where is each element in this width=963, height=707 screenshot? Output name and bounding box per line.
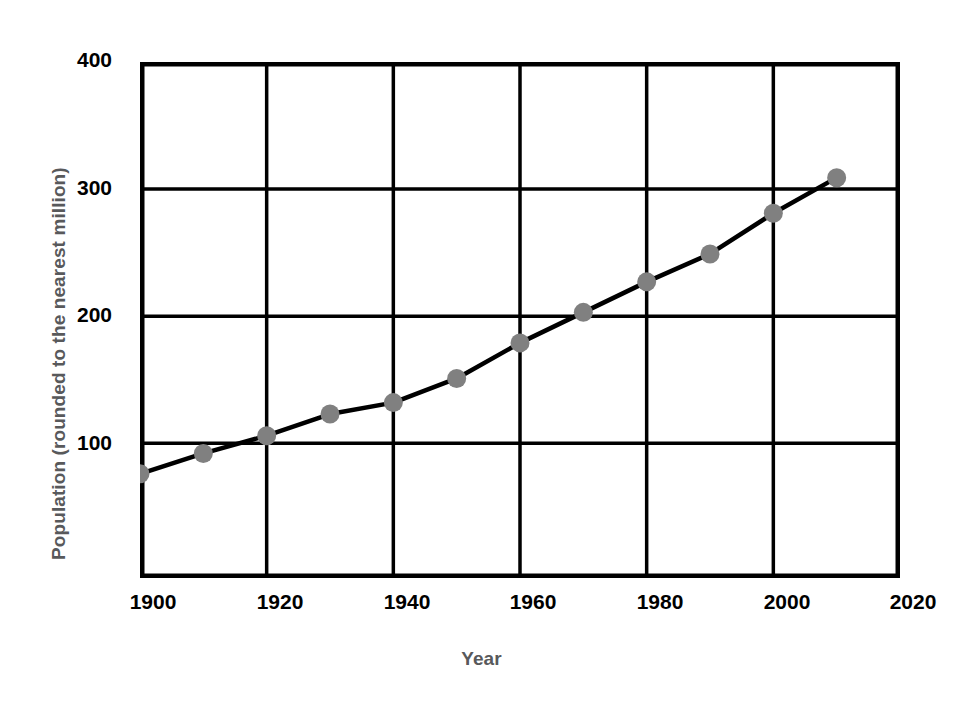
chart-container: Population (rounded to the nearest milli… — [0, 0, 963, 707]
y-tick-label-400: 400 — [32, 48, 112, 72]
x-axis-title: Year — [0, 648, 963, 670]
x-tick-label-1980: 1980 — [615, 590, 705, 614]
data-point-1970 — [574, 303, 593, 322]
line-chart-svg — [140, 62, 900, 578]
y-axis-title: Population (rounded to the nearest milli… — [48, 20, 70, 560]
data-point-2010 — [827, 168, 846, 187]
data-point-1940 — [384, 393, 403, 412]
x-tick-label-1960: 1960 — [488, 590, 578, 614]
data-points — [140, 168, 846, 483]
data-line — [140, 178, 837, 474]
x-tick-label-2000: 2000 — [742, 590, 832, 614]
x-tick-label-1900: 1900 — [108, 590, 198, 614]
data-point-1930 — [321, 405, 340, 424]
plot-area — [140, 62, 900, 578]
data-point-1900 — [140, 464, 150, 483]
y-tick-label-100: 100 — [32, 431, 112, 455]
gridlines — [140, 62, 900, 578]
y-tick-label-200: 200 — [32, 303, 112, 327]
data-point-1920 — [257, 426, 276, 445]
data-point-1980 — [637, 272, 656, 291]
x-tick-label-1920: 1920 — [235, 590, 325, 614]
data-point-1990 — [701, 244, 720, 263]
x-tick-label-1940: 1940 — [362, 590, 452, 614]
data-point-1910 — [194, 444, 213, 463]
x-tick-label-2020: 2020 — [868, 590, 958, 614]
y-tick-label-300: 300 — [32, 176, 112, 200]
data-point-1950 — [447, 369, 466, 388]
data-point-2000 — [764, 204, 783, 223]
data-point-1960 — [511, 333, 530, 352]
